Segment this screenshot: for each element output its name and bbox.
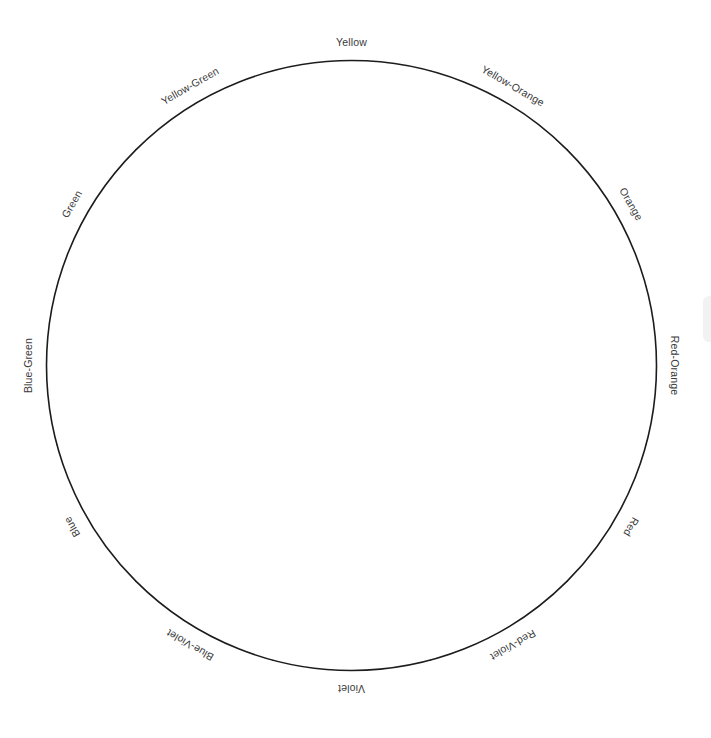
wheel-outline-circle (47, 61, 657, 671)
wheel-label-orange: Orange (617, 185, 645, 222)
wheel-label-blue: Blue (61, 515, 82, 540)
color-wheel-canvas: YellowYellow-OrangeOrangeRed-OrangeRedRe… (0, 0, 711, 738)
wheel-label-red: Red (621, 516, 641, 539)
right-edge-artifact (703, 296, 711, 342)
wheel-label-blue-green: Blue-Green (22, 338, 34, 393)
wheel-label-red-orange: Red-Orange (669, 336, 681, 395)
wheel-label-green: Green (59, 188, 84, 220)
wheel-label-violet: Violet (338, 683, 365, 695)
color-wheel-diagram: YellowYellow-OrangeOrangeRed-OrangeRedRe… (0, 0, 711, 738)
wheel-label-yellow: Yellow (336, 36, 367, 48)
